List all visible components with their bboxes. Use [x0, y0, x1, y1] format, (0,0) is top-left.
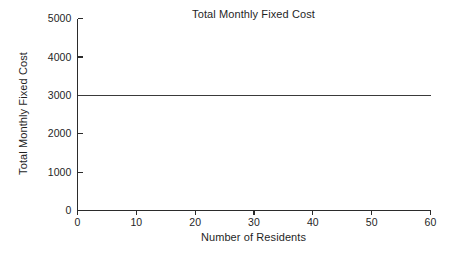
x-axis-tick-label: 60	[425, 216, 437, 228]
y-axis-tick-label: 0	[66, 204, 72, 216]
axes-group	[78, 19, 431, 211]
x-axis-tick-label: 30	[248, 216, 260, 228]
chart-container: Total Monthly Fixed Cost Total Monthly F…	[0, 0, 460, 255]
y-axis-tick-label: 2000	[48, 127, 72, 139]
y-axis-tick-label: 1000	[48, 166, 72, 178]
x-axis-tick-label: 50	[366, 216, 378, 228]
x-axis-tick-label: 0	[75, 216, 81, 228]
y-axis-tick-label: 5000	[48, 12, 72, 24]
ticks-group	[78, 19, 431, 216]
y-axis-tick-label: 4000	[48, 51, 72, 63]
y-axis-tick-label: 3000	[48, 89, 72, 101]
plot-area: 0100020003000400050000102030405060	[0, 0, 460, 255]
x-axis-tick-label: 40	[307, 216, 319, 228]
tick-labels-group: 0100020003000400050000102030405060	[48, 12, 437, 227]
x-axis-tick-label: 10	[130, 216, 142, 228]
x-axis-tick-label: 20	[189, 216, 201, 228]
